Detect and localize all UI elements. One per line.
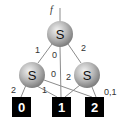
- edge-label-top-out1: 0: [52, 50, 57, 60]
- output-2-label: 2: [91, 100, 98, 115]
- output-2: 2: [85, 97, 104, 117]
- edge-label-left-out0: 2: [11, 85, 16, 95]
- edge-label-right-out1: 2: [66, 72, 71, 82]
- node-left: S: [19, 62, 45, 88]
- output-1: 1: [52, 97, 71, 117]
- node-top: S: [47, 21, 73, 47]
- node-right-label: S: [83, 68, 92, 83]
- output-0: 0: [12, 97, 31, 117]
- decision-diagram: f 1 0 2 2 1 0 2 0,1 S S S 0 1 2: [0, 0, 123, 123]
- input-label: f: [50, 4, 54, 15]
- edge-label-left-out1: 1: [42, 85, 47, 95]
- node-top-label: S: [56, 27, 65, 42]
- edge-left-out0: [21, 85, 26, 97]
- edge-label-top-right: 2: [81, 43, 86, 53]
- output-0-label: 0: [18, 100, 25, 115]
- node-left-label: S: [28, 68, 37, 83]
- node-right: S: [74, 62, 100, 88]
- edge-right-out2: [92, 87, 96, 97]
- edge-label-right-out2: 0,1: [104, 87, 117, 97]
- edge-right-out1: [65, 85, 80, 97]
- edge-top-left: [38, 44, 52, 63]
- edge-top-right: [68, 44, 81, 63]
- edge-label-left-out2: 0: [51, 69, 56, 79]
- edge-label-top-left: 1: [35, 45, 40, 55]
- output-1-label: 1: [58, 100, 65, 115]
- edge-top-out1: [60, 47, 61, 97]
